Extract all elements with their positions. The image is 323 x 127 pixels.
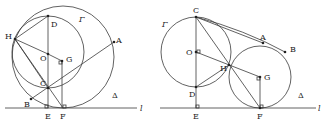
label-f: F	[257, 112, 263, 121]
segment-ca	[196, 17, 263, 43]
label-c: C	[40, 79, 46, 88]
point-d	[195, 86, 198, 89]
point-a	[113, 41, 116, 44]
segment-cf	[196, 17, 260, 108]
label-h: H	[5, 32, 12, 41]
segment-hd	[15, 16, 48, 39]
label-gamma: Γ	[78, 15, 85, 24]
point-c	[47, 87, 50, 90]
label-gamma: Γ	[161, 20, 168, 29]
point-b	[284, 51, 287, 54]
label-delta: Δ	[112, 91, 118, 100]
point-h	[14, 38, 17, 41]
label-d: D	[51, 20, 57, 29]
point-a	[262, 42, 265, 45]
point-o	[195, 51, 198, 54]
point-g	[61, 60, 64, 63]
label-g: G	[66, 55, 72, 64]
point-g	[259, 76, 262, 79]
point-d	[47, 15, 50, 18]
label-l: l	[140, 104, 143, 113]
label-a: A	[115, 36, 122, 45]
right-angle-e	[196, 105, 199, 108]
label-l: l	[318, 104, 321, 113]
point-o	[47, 53, 50, 56]
label-delta: Δ	[298, 91, 304, 100]
left-figure: H D O G C A B E F Γ Δ l	[5, 6, 143, 121]
label-b: B	[290, 45, 296, 54]
label-e: E	[193, 112, 199, 121]
label-o: O	[40, 54, 47, 63]
point-b	[30, 98, 33, 101]
label-o: O	[186, 48, 193, 57]
label-e: E	[45, 112, 51, 121]
point-f	[259, 107, 262, 110]
label-c: C	[193, 6, 199, 15]
label-g: G	[264, 73, 270, 82]
label-d: D	[189, 90, 195, 99]
point-h	[228, 64, 231, 67]
geometry-figures: H D O G C A B E F Γ Δ l	[0, 0, 323, 127]
label-f: F	[60, 112, 66, 121]
right-figure: C O D E H G F A B Γ Δ l	[160, 6, 321, 121]
label-b: B	[24, 100, 30, 109]
label-h: H	[220, 64, 227, 73]
point-c	[195, 16, 198, 19]
segment-og	[48, 54, 62, 61]
label-a: A	[259, 33, 266, 42]
